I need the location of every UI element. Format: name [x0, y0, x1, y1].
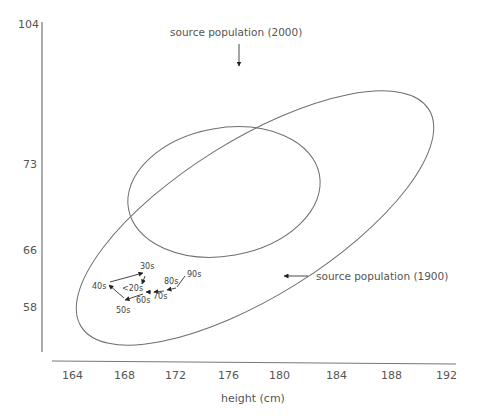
ellipse-1900	[40, 43, 470, 393]
chart: 104 73 66 58 164 168 172 176 180 184 188…	[0, 0, 479, 416]
x-tick-192: 192	[436, 369, 457, 382]
annotation-1900: source population (1900)	[316, 270, 448, 282]
point-label-40s: 40s	[92, 282, 106, 291]
point-label-90s: 90s	[187, 270, 201, 279]
x-tick-176: 176	[218, 369, 239, 382]
y-tick-58: 58	[23, 301, 37, 314]
x-axis-title: height (cm)	[221, 392, 285, 405]
x-axis	[52, 361, 456, 364]
point-label-60s: 60s	[136, 296, 150, 305]
x-tick-172: 172	[165, 369, 186, 382]
point-label-20s: <20s	[122, 284, 143, 293]
x-tick-168: 168	[114, 369, 135, 382]
x-tick-164: 164	[62, 369, 83, 382]
point-label-80s: 80s	[164, 277, 178, 286]
ellipse-2000	[117, 112, 330, 272]
y-tick-104: 104	[18, 18, 39, 31]
arrow-40s-30s	[110, 273, 143, 282]
point-label-30s: 30s	[140, 262, 154, 271]
y-tick-73: 73	[23, 158, 37, 171]
point-label-50s: 50s	[116, 306, 130, 315]
arrow-90s-80s	[167, 288, 176, 290]
annotation-2000: source population (2000)	[170, 26, 302, 38]
x-tick-184: 184	[326, 369, 347, 382]
arrow-30s-20s	[142, 276, 145, 284]
x-tick-188: 188	[381, 369, 402, 382]
x-tick-180: 180	[269, 369, 290, 382]
y-tick-66: 66	[23, 244, 37, 257]
point-label-70s: 70s	[153, 292, 167, 301]
